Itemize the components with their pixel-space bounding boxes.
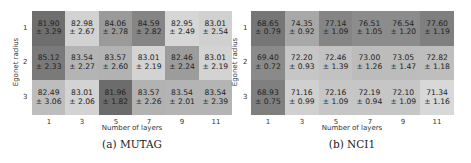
cell-std: ± 1.47 — [390, 63, 416, 72]
nci1-x-axis-label: Number of layers — [302, 124, 402, 132]
cell-std: ± 2.24 — [169, 63, 195, 72]
cell-std: ± 2.01 — [169, 98, 195, 107]
heatmap-cell: 71.16± 0.99 — [285, 80, 319, 115]
cell-std: ± 1.16 — [424, 98, 450, 107]
cell-std: ± 2.49 — [169, 28, 195, 37]
nci1-y-axis-label: Egonet radius — [231, 32, 239, 92]
mutag-y-tick-2: 2 — [23, 58, 27, 66]
cell-std: ± 2.82 — [136, 28, 162, 37]
cell-std: ± 2.06 — [69, 98, 95, 107]
heatmap-cell: 72.46± 1.39 — [319, 46, 353, 81]
heatmap-cell: 68.93± 0.75 — [251, 80, 285, 115]
cell-std: ± 0.94 — [357, 98, 383, 107]
mutag-y-tick-1: 1 — [23, 24, 27, 32]
cell-std: ± 0.79 — [255, 28, 281, 37]
cell-std: ± 1.05 — [357, 28, 383, 37]
cell-std: ± 3.06 — [36, 98, 62, 107]
cell-std: ± 1.26 — [357, 63, 383, 72]
heatmap-cell: 83.01± 2.19 — [199, 46, 232, 81]
heatmap-cell: 68.65± 0.79 — [251, 11, 285, 46]
heatmap-cell: 82.49± 3.06 — [32, 80, 65, 115]
mutag-x-tick-11: 11 — [206, 118, 226, 126]
cell-std: ± 3.29 — [36, 28, 62, 37]
heatmap-cell: 72.20± 0.93 — [285, 46, 319, 81]
heatmap-cell: 81.96± 1.82 — [99, 80, 132, 115]
heatmap-cell: 84.06± 2.78 — [99, 11, 132, 46]
cell-std: ± 2.54 — [202, 28, 228, 37]
nci1-caption: (b) NCI1 — [292, 138, 412, 150]
cell-std: ± 2.78 — [102, 28, 128, 37]
nci1-heatmap: 68.65± 0.7974.35± 0.9277.14± 1.0976.51± … — [251, 11, 454, 115]
cell-std: ± 1.18 — [424, 63, 450, 72]
cell-std: ± 0.92 — [289, 28, 315, 37]
heatmap-cell: 77.60± 1.19 — [420, 11, 454, 46]
heatmap-cell: 71.34± 1.16 — [420, 80, 454, 115]
cell-std: ± 2.60 — [102, 63, 128, 72]
heatmap-cell: 74.35± 0.92 — [285, 11, 319, 46]
heatmap-cell: 85.12± 2.33 — [32, 46, 65, 81]
cell-std: ± 1.20 — [390, 28, 416, 37]
heatmap-cell: 83.54± 2.27 — [65, 46, 98, 81]
cell-std: ± 1.19 — [424, 28, 450, 37]
heatmap-cell: 69.40± 0.72 — [251, 46, 285, 81]
cell-std: ± 1.09 — [390, 98, 416, 107]
heatmap-cell: 82.95± 2.49 — [165, 11, 198, 46]
heatmap-cell: 83.57± 2.60 — [99, 46, 132, 81]
heatmap-cell: 72.10± 1.09 — [386, 80, 420, 115]
cell-std: ± 0.75 — [255, 98, 281, 107]
cell-std: ± 0.99 — [289, 98, 315, 107]
heatmap-cell: 81.90± 3.29 — [32, 11, 65, 46]
cell-std: ± 1.09 — [323, 28, 349, 37]
heatmap-cell: 72.82± 1.18 — [420, 46, 454, 81]
nci1-y-tick-1: 1 — [243, 24, 247, 32]
cell-std: ± 0.93 — [289, 63, 315, 72]
cell-std: ± 2.33 — [36, 63, 62, 72]
heatmap-cell: 73.00± 1.26 — [352, 46, 386, 81]
heatmap-cell: 76.51± 1.05 — [352, 11, 386, 46]
cell-std: ± 1.82 — [102, 98, 128, 107]
mutag-x-tick-1: 1 — [39, 118, 59, 126]
heatmap-cell: 73.05± 1.47 — [386, 46, 420, 81]
heatmap-cell: 72.16± 1.09 — [319, 80, 353, 115]
heatmap-cell: 83.57± 2.26 — [132, 80, 165, 115]
nci1-x-tick-11: 11 — [427, 118, 447, 126]
mutag-x-axis-label: Number of layers — [82, 124, 182, 132]
nci1-y-tick-2: 2 — [243, 58, 247, 66]
cell-std: ± 1.09 — [323, 98, 349, 107]
heatmap-cell: 82.98± 2.67 — [65, 11, 98, 46]
mutag-y-tick-3: 3 — [23, 93, 27, 101]
heatmap-cell: 83.01± 2.19 — [132, 46, 165, 81]
cell-std: ± 2.39 — [202, 98, 228, 107]
heatmap-cell: 83.54± 2.39 — [199, 80, 232, 115]
mutag-heatmap: 81.90± 3.2982.98± 2.6784.06± 2.7884.59± … — [32, 11, 232, 115]
heatmap-cell: 77.14± 1.09 — [319, 11, 353, 46]
heatmap-cell: 72.19± 0.94 — [352, 80, 386, 115]
nci1-y-tick-3: 3 — [243, 93, 247, 101]
cell-std: ± 2.19 — [202, 63, 228, 72]
nci1-x-tick-1: 1 — [258, 118, 278, 126]
heatmap-cell: 83.01± 2.06 — [65, 80, 98, 115]
cell-std: ± 2.27 — [69, 63, 95, 72]
cell-std: ± 0.72 — [255, 63, 281, 72]
heatmap-cell: 82.46± 2.24 — [165, 46, 198, 81]
cell-std: ± 1.39 — [323, 63, 349, 72]
heatmap-cell: 76.54± 1.20 — [386, 11, 420, 46]
mutag-caption: (a) MUTAG — [72, 138, 192, 150]
cell-std: ± 2.19 — [136, 63, 162, 72]
heatmap-cell: 83.01± 2.54 — [199, 11, 232, 46]
cell-std: ± 2.26 — [136, 98, 162, 107]
heatmap-cell: 83.54± 2.01 — [165, 80, 198, 115]
heatmap-cell: 84.59± 2.82 — [132, 11, 165, 46]
cell-std: ± 2.67 — [69, 28, 95, 37]
mutag-y-axis-label: Egonet radius — [12, 32, 20, 92]
